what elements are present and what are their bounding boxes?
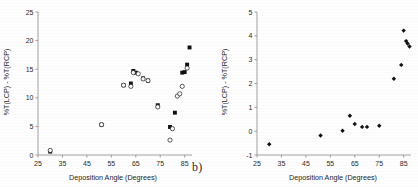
data-point-open <box>156 105 160 109</box>
data-point-filled <box>318 133 322 137</box>
data-point-open <box>48 148 52 152</box>
data-point-filled <box>183 70 187 74</box>
right-tick-labels: -101234525354555657585 <box>246 9 407 168</box>
chart-left-canvas: 051015202525354555657585 Deposition Angl… <box>0 0 200 187</box>
y-tick-label: 2 <box>249 80 253 87</box>
data-point-open <box>136 72 140 76</box>
x-tick-label: 75 <box>156 160 164 167</box>
x-tick-label: 65 <box>351 160 359 167</box>
data-point-open <box>180 84 184 88</box>
data-point-filled <box>377 123 381 127</box>
data-point-filled <box>401 28 405 32</box>
y-tick-label: 1 <box>249 104 253 111</box>
y-tick-label: 4 <box>249 32 253 39</box>
y-tick-label: 10 <box>26 94 34 101</box>
x-tick-label: 85 <box>400 160 408 167</box>
x-tick-label: 85 <box>181 160 189 167</box>
data-point-open <box>146 79 150 83</box>
subfigure-label: b) <box>192 160 202 175</box>
y-tick-label: 5 <box>249 9 253 16</box>
y-tick-label: -1 <box>246 152 252 159</box>
right-x-axis-title: Deposition Angle (Degrees) <box>289 173 377 182</box>
data-point-open <box>129 84 133 88</box>
y-tick-label: 0 <box>249 128 253 135</box>
data-point-filled <box>392 77 396 81</box>
x-tick-label: 35 <box>278 160 286 167</box>
data-point-open <box>121 83 125 87</box>
x-tick-label: 55 <box>107 160 115 167</box>
left-y-axis-title: %T(LCP) - %T(RCP) <box>2 49 11 116</box>
chart-right: -101234525354555657585 Deposition Angle … <box>213 0 418 187</box>
x-tick-label: 65 <box>132 160 140 167</box>
data-point-open <box>168 138 172 142</box>
data-point-open <box>141 77 145 81</box>
figure-panel-b: 051015202525354555657585 Deposition Angl… <box>0 0 418 187</box>
left-axes <box>35 12 192 158</box>
left-data-points <box>48 46 191 154</box>
data-point-filled <box>173 111 177 115</box>
y-tick-label: 0 <box>30 152 34 159</box>
y-tick-label: 25 <box>26 9 34 16</box>
x-tick-label: 45 <box>83 160 91 167</box>
data-point-filled <box>348 113 352 117</box>
data-point-filled <box>360 125 364 129</box>
data-point-filled <box>188 46 192 50</box>
right-axes <box>254 12 411 158</box>
y-tick-label: 20 <box>26 37 34 44</box>
data-point-open <box>99 123 103 127</box>
data-point-open <box>185 66 189 70</box>
x-tick-label: 25 <box>253 160 261 167</box>
data-point-filled <box>267 142 271 146</box>
data-point-open <box>178 92 182 96</box>
x-tick-label: 75 <box>375 160 383 167</box>
x-tick-label: 35 <box>59 160 67 167</box>
y-tick-label: 3 <box>249 56 253 63</box>
x-tick-label: 25 <box>34 160 42 167</box>
y-tick-label: 5 <box>30 123 34 130</box>
data-point-open <box>170 127 174 131</box>
left-x-axis-title: Deposition Angle (Degrees) <box>69 173 157 182</box>
chart-right-canvas: -101234525354555657585 Deposition Angle … <box>213 0 418 187</box>
x-tick-label: 55 <box>326 160 334 167</box>
data-point-filled <box>399 63 403 67</box>
y-tick-label: 15 <box>26 66 34 73</box>
right-y-axis-title: %T(LCP) - %T(RCP) <box>220 49 229 116</box>
data-point-filled <box>340 128 344 132</box>
right-data-points <box>267 28 412 146</box>
chart-left: 051015202525354555657585 Deposition Angl… <box>0 0 200 187</box>
data-point-filled <box>353 122 357 126</box>
left-tick-labels: 051015202525354555657585 <box>26 9 189 168</box>
data-point-filled <box>365 125 369 129</box>
x-tick-label: 45 <box>302 160 310 167</box>
data-point-open <box>131 71 135 75</box>
